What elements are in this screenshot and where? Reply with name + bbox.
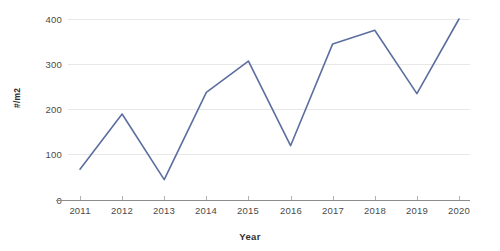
- data-line-series: [80, 19, 459, 180]
- series-layer: [0, 0, 500, 251]
- line-chart: 400 300 200 100 0 2011 2012 2013 2014 20…: [0, 0, 500, 251]
